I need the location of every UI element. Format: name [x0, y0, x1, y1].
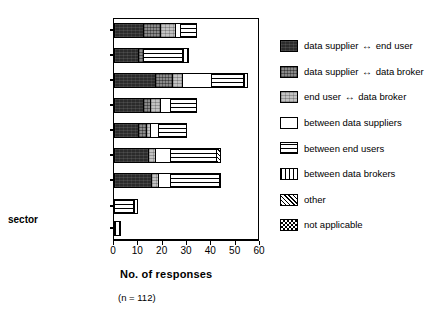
double-arrow-icon: ↔: [344, 91, 356, 102]
bar-segment-eu-db[interactable]: [150, 98, 160, 113]
bar-segment-ds-eu[interactable]: [114, 123, 138, 138]
bar-segment-eu-db[interactable]: [160, 23, 175, 38]
x-axis-title: No. of responses: [120, 268, 212, 280]
legend-swatch-ds-db-icon: [280, 66, 298, 78]
bar-segment-ds-eu[interactable]: [114, 173, 151, 188]
bar-segment-ds-db[interactable]: [138, 123, 145, 138]
legend-label: not applicable: [304, 220, 363, 230]
bar-segment-ds-db[interactable]: [143, 98, 150, 113]
x-axis-tick-label: 10: [125, 246, 149, 256]
legend-label: between data suppliers: [304, 118, 402, 128]
bar-segment-eu-db[interactable]: [151, 173, 158, 188]
bar-segment-bds[interactable]: [155, 148, 170, 163]
bar-segment-ds-eu[interactable]: [114, 73, 155, 88]
bar-segment-bdb[interactable]: [133, 199, 138, 214]
legend-label: between end users: [304, 144, 384, 154]
legend-swatch-eu-db-icon: [280, 91, 298, 103]
bar-segment-other[interactable]: [216, 148, 221, 163]
bar-national-government[interactable]: [114, 123, 187, 138]
x-axis-tick-label: 50: [223, 246, 247, 256]
bar-segment-beu[interactable]: [170, 148, 216, 163]
bar-para-statals[interactable]: [114, 173, 221, 188]
bar-segment-beu[interactable]: [114, 199, 133, 214]
double-arrow-icon: ↔: [361, 40, 373, 51]
legend-item-beu[interactable]: between end users: [280, 138, 420, 158]
bar-segment-beu[interactable]: [143, 48, 182, 63]
legend-swatch-beu-icon: [280, 142, 298, 154]
x-axis-tick-label: 0: [101, 246, 125, 256]
legend-swatch-bdb-icon: [280, 168, 298, 180]
sample-size-note: (n = 112): [118, 292, 156, 303]
bar-segment-bds[interactable]: [182, 73, 211, 88]
bar-local-authorities[interactable]: [114, 73, 248, 88]
bar-segment-eu-db[interactable]: [148, 148, 155, 163]
legend-item-eu-db[interactable]: end user ↔ data broker: [280, 87, 420, 107]
legend-label: other: [304, 195, 326, 205]
legend-swatch-ds-eu-icon: [280, 40, 298, 52]
bar-gis-industry[interactable]: [114, 23, 197, 38]
bar-private-sector[interactable]: [114, 48, 189, 63]
bar-segment-ds-db[interactable]: [143, 23, 160, 38]
bars-container: [114, 19, 258, 239]
legend-item-bds[interactable]: between data suppliers: [280, 113, 420, 133]
legend-item-ds-db[interactable]: data supplier ↔ data broker: [280, 62, 420, 82]
bar-segment-ds-eu[interactable]: [114, 23, 143, 38]
bar-segment-ds-eu[interactable]: [114, 148, 148, 163]
bar-segment-beu[interactable]: [170, 173, 219, 188]
legend-swatch-bds-icon: [280, 117, 298, 129]
bar-segment-bdb[interactable]: [182, 48, 189, 63]
legend-item-ds-eu[interactable]: data supplier ↔ end user: [280, 36, 420, 56]
x-axis-tick-label: 20: [150, 246, 174, 256]
legend-item-bdb[interactable]: between data brokers: [280, 164, 420, 184]
legend-label: data supplier ↔ data broker: [304, 67, 424, 77]
bar-segment-beu[interactable]: [180, 23, 197, 38]
legend-swatch-na-icon: [280, 219, 298, 231]
double-arrow-icon: ↔: [361, 66, 373, 77]
legend-item-na[interactable]: not applicable: [280, 215, 420, 235]
legend-label: end user ↔ data broker: [304, 92, 406, 102]
bar-segment-ds-eu[interactable]: [114, 48, 138, 63]
bar-provincial-government[interactable]: [114, 98, 197, 113]
y-axis-title: sector: [8, 214, 38, 225]
chart-root: sector GIS industryPrivate sectorLocal a…: [0, 0, 425, 317]
bar-segment-eu-db[interactable]: [172, 73, 182, 88]
bar-segment-bds[interactable]: [160, 98, 170, 113]
plot-area: [113, 18, 259, 240]
bar-segment-bdb[interactable]: [114, 221, 121, 236]
bar-academia[interactable]: [114, 148, 221, 163]
bar-other[interactable]: [114, 221, 121, 236]
legend-label: between data brokers: [304, 169, 395, 179]
bar-segment-bds[interactable]: [158, 173, 170, 188]
x-axis-tick-label: 30: [174, 246, 198, 256]
bar-segment-ds-db[interactable]: [155, 73, 172, 88]
legend-swatch-other-icon: [280, 194, 298, 206]
bar-segment-bdb[interactable]: [219, 173, 221, 188]
bar-segment-beu[interactable]: [211, 73, 243, 88]
bar-segment-bds[interactable]: [150, 123, 157, 138]
bar-segment-bdb[interactable]: [243, 73, 248, 88]
x-axis-tick-label: 60: [247, 246, 271, 256]
bar-ngos[interactable]: [114, 199, 138, 214]
legend-item-other[interactable]: other: [280, 190, 420, 210]
x-axis-tick-label: 40: [198, 246, 222, 256]
legend: data supplier ↔ end userdata supplier ↔ …: [280, 36, 420, 241]
bar-segment-ds-eu[interactable]: [114, 98, 143, 113]
bar-segment-beu[interactable]: [158, 123, 187, 138]
bar-segment-beu[interactable]: [170, 98, 197, 113]
legend-label: data supplier ↔ end user: [304, 41, 413, 51]
